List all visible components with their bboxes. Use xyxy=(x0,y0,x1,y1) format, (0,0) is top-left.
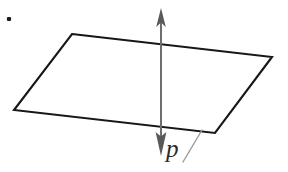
figure-canvas: p xyxy=(0,0,288,172)
list-bullet-icon xyxy=(7,17,11,21)
label-leader-line xyxy=(183,130,202,162)
parallelogram-plane xyxy=(14,34,272,133)
vector-label-p: p xyxy=(166,136,179,161)
diagram-svg xyxy=(0,0,288,172)
